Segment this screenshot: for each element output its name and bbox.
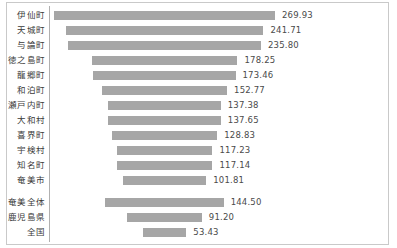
category-label: 天城町	[0, 23, 45, 38]
category-label: 奄美市	[0, 173, 45, 188]
chart-row: 龍郷町173.46	[0, 68, 397, 83]
bar-value-label: 173.46	[243, 68, 274, 83]
category-label: 鹿児島県	[0, 210, 45, 225]
bar	[92, 56, 238, 65]
chart-plot-area: 伊仙町269.93天城町241.71与論町235.80徳之島町178.25龍郷町…	[0, 0, 397, 248]
category-label: 宇検村	[0, 143, 45, 158]
category-label: 大和村	[0, 113, 45, 128]
bar-value-label: 117.14	[219, 158, 250, 173]
bar-value-label: 241.71	[270, 23, 301, 38]
chart-row: 喜界町128.83	[0, 128, 397, 143]
bar	[102, 86, 227, 95]
category-label: 喜界町	[0, 128, 45, 143]
bar-value-label: 152.77	[234, 83, 265, 98]
chart-row: 瀬戸内町137.38	[0, 98, 397, 113]
bar-value-label: 137.38	[228, 98, 259, 113]
bar	[143, 228, 187, 237]
chart-row: 鹿児島県91.20	[0, 210, 397, 225]
chart-row: 全国53.43	[0, 225, 397, 240]
bar	[54, 11, 275, 20]
category-label: 与論町	[0, 38, 45, 53]
category-label: 奄美全体	[0, 195, 45, 210]
bar	[108, 116, 221, 125]
bar-value-label: 269.93	[282, 8, 313, 23]
category-label: 伊仙町	[0, 8, 45, 23]
bar	[127, 213, 202, 222]
category-label: 瀬戸内町	[0, 98, 45, 113]
bar-value-label: 178.25	[244, 53, 275, 68]
category-label: 全国	[0, 225, 45, 240]
category-label: 龍郷町	[0, 68, 45, 83]
chart-row: 和泊町152.77	[0, 83, 397, 98]
chart-row: 宇検村117.23	[0, 143, 397, 158]
bar	[117, 161, 213, 170]
chart-row: 徳之島町178.25	[0, 53, 397, 68]
bar	[105, 198, 223, 207]
chart-row: 天城町241.71	[0, 23, 397, 38]
chart-row: 知名町117.14	[0, 158, 397, 173]
bar-value-label: 101.81	[213, 173, 244, 188]
bar-chart: 伊仙町269.93天城町241.71与論町235.80徳之島町178.25龍郷町…	[0, 0, 397, 248]
bar-value-label: 235.80	[268, 38, 299, 53]
bar-value-label: 128.83	[224, 128, 255, 143]
chart-row: 大和村137.65	[0, 113, 397, 128]
category-label: 和泊町	[0, 83, 45, 98]
bar	[108, 101, 220, 110]
chart-row: 奄美全体144.50	[0, 195, 397, 210]
category-label: 徳之島町	[0, 53, 45, 68]
bar	[93, 71, 235, 80]
bar	[112, 131, 217, 140]
bar	[117, 146, 213, 155]
bar	[123, 176, 206, 185]
bar-value-label: 117.23	[219, 143, 250, 158]
bar	[68, 41, 261, 50]
bar-value-label: 137.65	[228, 113, 259, 128]
chart-row: 与論町235.80	[0, 38, 397, 53]
bar-value-label: 91.20	[209, 210, 234, 225]
chart-row: 奄美市101.81	[0, 173, 397, 188]
chart-row: 伊仙町269.93	[0, 8, 397, 23]
bar-value-label: 53.43	[193, 225, 218, 240]
category-label: 知名町	[0, 158, 45, 173]
bar	[66, 26, 264, 35]
bar-value-label: 144.50	[231, 195, 262, 210]
